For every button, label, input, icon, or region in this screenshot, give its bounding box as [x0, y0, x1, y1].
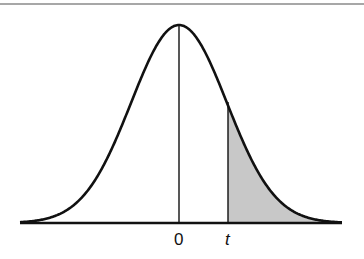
normal-curve-diagram — [0, 0, 364, 259]
threshold-label: t — [225, 230, 230, 250]
density-curve — [20, 25, 342, 222]
center-label: 0 — [174, 230, 183, 250]
